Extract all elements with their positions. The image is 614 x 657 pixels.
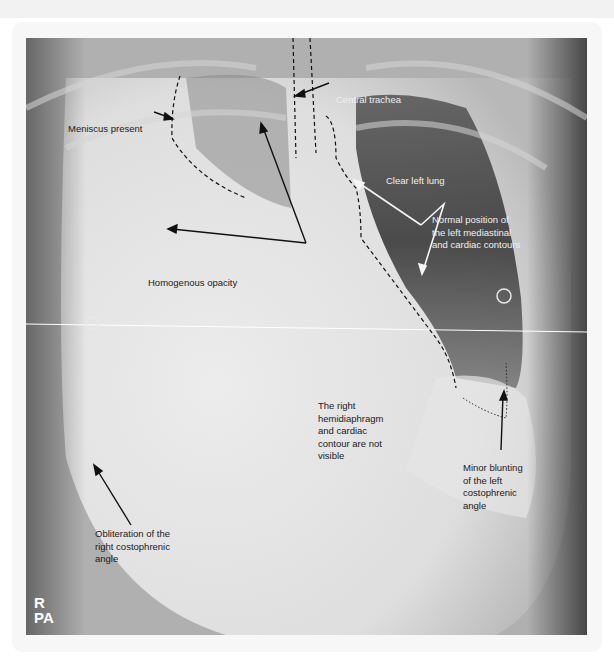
annotation-left-costophrenic: Minor blunting of the left costophrenic …: [463, 462, 523, 512]
projection-marker: PA: [34, 611, 54, 625]
top-band: [0, 0, 614, 18]
annotation-right-costophrenic: Obliteration of the right costophrenic a…: [95, 528, 170, 566]
annotation-hemidiaphragm: The right hemidiaphragm and cardiac cont…: [318, 400, 383, 463]
annotation-mediastinal: Normal position of the left mediastinal …: [432, 214, 520, 252]
annotation-left-lung: Clear left lung: [386, 175, 445, 188]
annotation-opacity: Homogenous opacity: [148, 277, 237, 290]
side-marker: R: [34, 596, 45, 610]
chest-xray: Meniscus present Central trachea Clear l…: [26, 38, 587, 635]
annotation-meniscus: Meniscus present: [68, 123, 142, 136]
annotation-trachea: Central trachea: [336, 94, 401, 107]
